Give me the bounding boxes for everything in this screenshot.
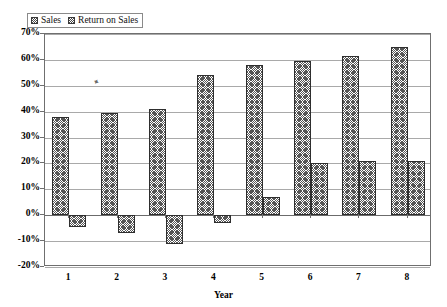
- y-axis-tick-label: 50%: [0, 80, 40, 89]
- y-axis-tick-label: 40%: [0, 106, 40, 115]
- x-axis-tick-mark: [262, 214, 263, 218]
- legend-entry-return-on-sales[interactable]: Return on Sales: [68, 15, 138, 26]
- x-axis-tick-label-8: 8: [387, 272, 427, 282]
- chart-legend: Sales Return on Sales: [27, 13, 143, 28]
- bar-sales-year-7[interactable]: [342, 56, 359, 215]
- x-axis-tick-mark: [407, 214, 408, 218]
- y-axis-tick-label: 20%: [0, 157, 40, 166]
- x-axis-title: Year: [0, 290, 447, 300]
- x-axis-tick-label-4: 4: [193, 272, 233, 282]
- hatch-swatch-icon: [68, 17, 75, 24]
- bar-return-on-sales-year-3[interactable]: [166, 215, 183, 243]
- y-axis-tick-mark: [40, 266, 44, 267]
- x-axis-tick-label-2: 2: [97, 272, 137, 282]
- y-axis-tick-label: 10%: [0, 183, 40, 192]
- x-axis-tick-mark: [165, 214, 166, 218]
- legend-label-return-on-sales: Return on Sales: [78, 15, 138, 26]
- x-axis-tick-label-5: 5: [242, 272, 282, 282]
- bar-sales-year-8[interactable]: [391, 47, 408, 215]
- plot-area: ✦: [44, 33, 431, 266]
- x-axis-tick-mark: [358, 214, 359, 218]
- bars-layer: [45, 34, 430, 265]
- bar-sales-year-3[interactable]: [149, 109, 166, 215]
- bar-return-on-sales-year-2[interactable]: [118, 215, 135, 233]
- y-axis-tick-label: 60%: [0, 54, 40, 63]
- x-axis-tick-mark: [117, 214, 118, 218]
- bar-sales-year-5[interactable]: [246, 65, 263, 215]
- y-axis-tick-label: 0%: [0, 209, 40, 218]
- x-axis-tick-label-1: 1: [48, 272, 88, 282]
- bar-sales-year-4[interactable]: [197, 75, 214, 215]
- x-axis-tick-mark: [68, 214, 69, 218]
- bar-chart: Sales Return on Sales 70%60%50%40%30%20%…: [0, 0, 447, 307]
- bar-sales-year-1[interactable]: [52, 117, 69, 215]
- gridline: [45, 267, 430, 268]
- bar-sales-year-2[interactable]: [101, 113, 118, 215]
- y-axis-tick-label: 70%: [0, 28, 40, 37]
- y-axis: 70%60%50%40%30%20%10%0%-10%-20%: [0, 0, 40, 307]
- y-axis-tick-label: 30%: [0, 132, 40, 141]
- bar-return-on-sales-year-8[interactable]: [408, 161, 425, 215]
- y-axis-tick-label: -20%: [0, 261, 40, 270]
- x-axis-tick-label-7: 7: [338, 272, 378, 282]
- bar-return-on-sales-year-6[interactable]: [311, 163, 328, 215]
- bar-return-on-sales-year-4[interactable]: [214, 215, 231, 223]
- bar-return-on-sales-year-7[interactable]: [359, 161, 376, 215]
- x-axis-tick-mark: [310, 214, 311, 218]
- bar-return-on-sales-year-1[interactable]: [69, 215, 86, 227]
- x-axis-tick-label-6: 6: [290, 272, 330, 282]
- x-axis-tick-mark: [213, 214, 214, 218]
- x-axis-tick-label-3: 3: [145, 272, 185, 282]
- bar-return-on-sales-year-5[interactable]: [263, 197, 280, 215]
- legend-label-sales: Sales: [41, 15, 61, 26]
- y-axis-tick-label: -10%: [0, 235, 40, 244]
- bar-sales-year-6[interactable]: [294, 61, 311, 215]
